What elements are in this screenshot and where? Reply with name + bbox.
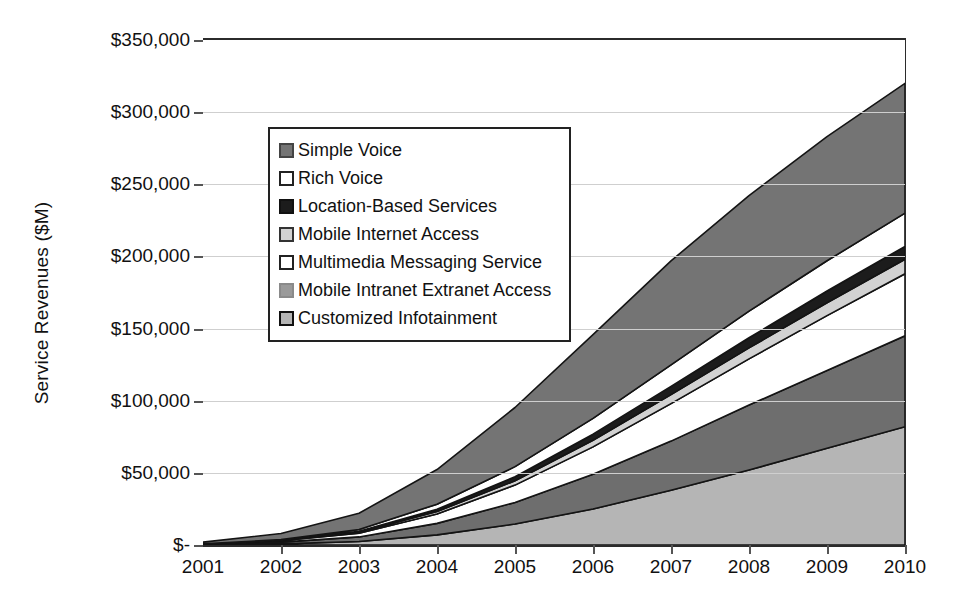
y-tick-mark [194, 545, 203, 547]
legend-item[interactable]: Rich Voice [279, 164, 560, 192]
legend-swatch-icon [279, 199, 294, 214]
y-axis-tick-label: $300,000 [40, 101, 190, 123]
x-tick-mark [749, 545, 751, 554]
y-axis-tick-label: $350,000 [40, 29, 190, 51]
y-axis-tick-labels: $350,000$300,000$250,000$200,000$150,000… [30, 0, 190, 603]
x-axis-tick-label: 2004 [397, 556, 477, 578]
legend-item-label: Mobile Intranet Extranet Access [298, 281, 551, 299]
legend-item-label: Rich Voice [298, 169, 383, 187]
y-gridline [203, 112, 905, 113]
y-axis-tick-label: $- [40, 534, 190, 556]
legend-item-label: Location-Based Services [298, 197, 497, 215]
y-axis-tick-label: $100,000 [40, 390, 190, 412]
x-axis-tick-label: 2005 [475, 556, 555, 578]
legend-item[interactable]: Mobile Internet Access [279, 220, 560, 248]
y-tick-mark [194, 112, 203, 114]
x-axis-tick-label: 2003 [319, 556, 399, 578]
x-axis-tick-label: 2007 [631, 556, 711, 578]
legend-item[interactable]: Simple Voice [279, 136, 560, 164]
legend-swatch-icon [279, 283, 294, 298]
y-axis-tick-label: $150,000 [40, 318, 190, 340]
x-tick-mark [515, 545, 517, 554]
legend-item-label: Customized Infotainment [298, 309, 497, 327]
y-tick-mark [194, 329, 203, 331]
y-tick-mark [194, 40, 203, 42]
y-axis-tick-label: $200,000 [40, 245, 190, 267]
x-axis-tick-label: 2006 [553, 556, 633, 578]
legend-item[interactable]: Customized Infotainment [279, 304, 560, 332]
legend-item[interactable]: Multimedia Messaging Service [279, 248, 560, 276]
legend-swatch-icon [279, 255, 294, 270]
y-tick-mark [194, 256, 203, 258]
x-tick-mark [827, 545, 829, 554]
legend-item-label: Mobile Internet Access [298, 225, 479, 243]
x-tick-mark [671, 545, 673, 554]
x-axis-tick-label: 2008 [709, 556, 789, 578]
x-tick-mark [905, 545, 907, 554]
legend-item[interactable]: Mobile Intranet Extranet Access [279, 276, 560, 304]
chart-legend: Simple VoiceRich VoiceLocation-Based Ser… [268, 127, 571, 342]
legend-swatch-icon [279, 227, 294, 242]
legend-item-label: Simple Voice [298, 141, 402, 159]
chart-container: Service Revenues ($M) $350,000$300,000$2… [0, 0, 975, 603]
y-axis-tick-label: $250,000 [40, 173, 190, 195]
x-tick-mark [359, 545, 361, 554]
x-axis-tick-label: 2001 [163, 556, 243, 578]
y-axis-tick-label: $50,000 [40, 462, 190, 484]
x-tick-mark [437, 545, 439, 554]
y-tick-mark [194, 401, 203, 403]
x-axis-tick-label: 2009 [787, 556, 867, 578]
x-tick-mark [281, 545, 283, 554]
y-gridline [203, 473, 905, 474]
legend-item[interactable]: Location-Based Services [279, 192, 560, 220]
legend-item-label: Multimedia Messaging Service [298, 253, 542, 271]
x-axis-tick-label: 2002 [241, 556, 321, 578]
y-tick-mark [194, 184, 203, 186]
x-tick-mark [593, 545, 595, 554]
x-axis-tick-label: 2010 [865, 556, 945, 578]
legend-swatch-icon [279, 143, 294, 158]
legend-swatch-icon [279, 311, 294, 326]
y-gridline [203, 401, 905, 402]
y-tick-mark [194, 473, 203, 475]
legend-swatch-icon [279, 171, 294, 186]
